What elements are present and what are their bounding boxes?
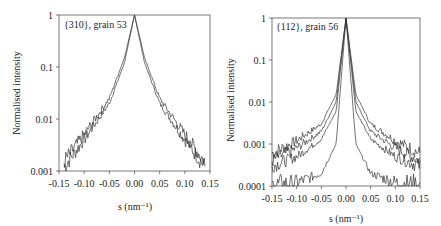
y-axis-ticks: 10.10.010.0010.0001 — [239, 13, 273, 192]
y-axis-ticks: 10.10.010.001 — [31, 10, 60, 177]
y-tick-label: 0.1 — [254, 55, 267, 66]
x-tick-label: 0.10 — [387, 193, 405, 204]
y-axis-label: Normalised intensity — [225, 58, 236, 142]
x-axis-label: s (nm⁻¹) — [329, 213, 363, 225]
x-tick-label: -0.15 — [49, 178, 70, 189]
x-tick-label: 0.10 — [176, 178, 194, 189]
x-tick-label: 0.05 — [151, 178, 169, 189]
x-tick-label: 0.00 — [126, 178, 144, 189]
figure: 10.10.010.001 -0.15-0.10-0.050.000.050.1… — [0, 0, 441, 226]
chart-annotation: {310}, grain 53 — [64, 19, 127, 30]
y-tick-label: 1 — [48, 10, 53, 21]
chart-310-grain-53: 10.10.010.001 -0.15-0.10-0.050.000.050.1… — [11, 10, 219, 214]
series-lines — [272, 18, 420, 186]
x-tick-label: -0.05 — [311, 193, 332, 204]
y-axis-label: Normalised intensity — [11, 51, 22, 135]
chart-112-grain-56: 10.10.010.0010.0001 -0.15-0.10-0.050.000… — [225, 13, 429, 226]
x-axis-ticks: -0.15-0.10-0.050.000.050.100.15 — [49, 171, 219, 189]
x-axis-label: s (nm⁻¹) — [118, 201, 152, 213]
y-tick-label: 0.0001 — [239, 181, 267, 192]
x-tick-label: 0.15 — [411, 193, 429, 204]
y-tick-label: 0.01 — [36, 114, 54, 125]
y-tick-label: 0.1 — [41, 62, 54, 73]
y-tick-label: 0.001 — [31, 166, 54, 177]
x-tick-label: 0.15 — [201, 178, 219, 189]
series-line — [272, 18, 420, 186]
x-tick-label: 0.00 — [337, 193, 355, 204]
series-line — [64, 15, 205, 171]
x-axis-ticks: -0.15-0.10-0.050.000.050.100.15 — [262, 186, 429, 204]
series-line — [272, 18, 420, 158]
series-line — [64, 15, 205, 168]
x-tick-label: -0.05 — [99, 178, 120, 189]
series-lines — [64, 15, 205, 171]
x-tick-label: 0.05 — [362, 193, 380, 204]
x-tick-label: -0.10 — [286, 193, 307, 204]
y-tick-label: 0.01 — [249, 97, 267, 108]
x-tick-label: -0.15 — [262, 193, 283, 204]
x-tick-label: -0.10 — [74, 178, 95, 189]
chart-annotation: {112}, grain 56 — [276, 21, 338, 32]
y-tick-label: 0.001 — [244, 139, 267, 150]
y-tick-label: 1 — [261, 13, 266, 24]
plot-frame — [272, 18, 420, 186]
